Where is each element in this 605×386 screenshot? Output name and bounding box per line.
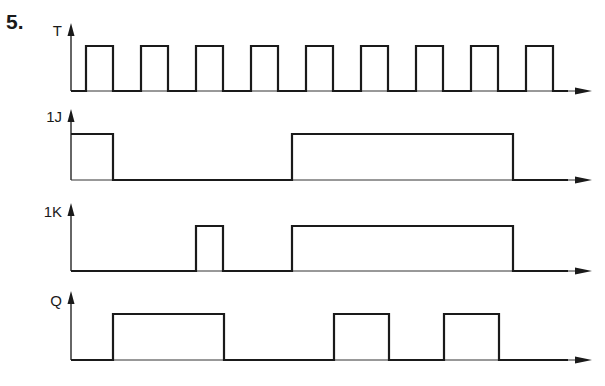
- y-axis-arrow-icon: [68, 109, 75, 122]
- time-axis-arrow-icon: [575, 88, 592, 95]
- time-axis-arrow-icon: [575, 357, 592, 364]
- y-axis-arrow-icon: [68, 291, 75, 304]
- waveform-1k: [71, 226, 568, 271]
- y-axis-arrow-icon: [68, 203, 75, 216]
- waveforms: [0, 0, 605, 386]
- waveform-t: [71, 46, 568, 91]
- timing-diagram: 5. T 1J 1K Q: [0, 0, 605, 386]
- time-axis-arrow-icon: [575, 268, 592, 275]
- waveform-1j: [71, 134, 568, 180]
- y-axis-arrow-icon: [68, 23, 75, 36]
- waveform-q: [71, 314, 568, 360]
- time-axis-arrow-icon: [575, 177, 592, 184]
